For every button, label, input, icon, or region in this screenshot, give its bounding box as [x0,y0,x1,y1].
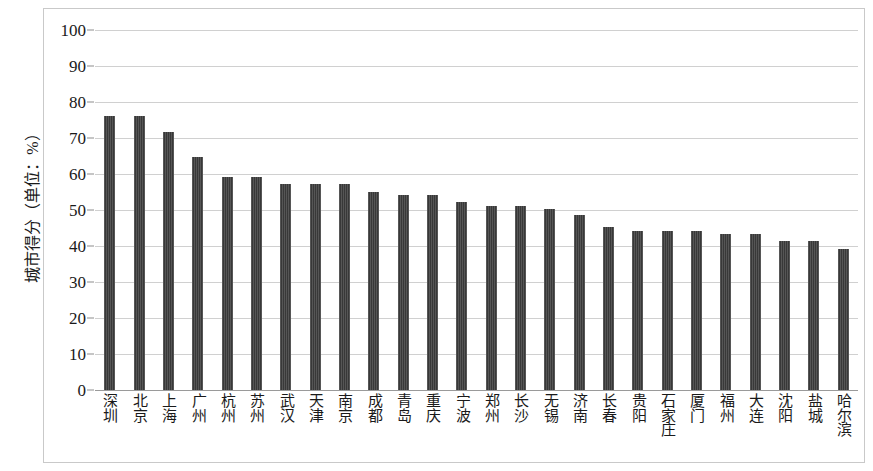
x-axis-label: 济南 [571,393,586,422]
y-tick-mark-30 [87,282,94,283]
bar [515,206,526,390]
x-axis-label: 长春 [601,393,616,422]
x-axis-label: 郑州 [483,393,498,422]
y-tick-mark-70 [87,138,94,139]
y-tick-label-50: 50 [69,202,86,219]
y-tick-mark-50 [87,210,94,211]
x-axis-label: 南京 [336,393,351,422]
y-axis-title: 城市得分（单位：%） [25,79,41,329]
y-tick-mark-40 [87,246,94,247]
x-axis-label: 深圳 [102,393,117,422]
x-axis-label: 大连 [747,393,762,422]
bar [603,227,614,390]
bar [251,177,262,390]
y-tick-label-20: 20 [69,310,86,327]
x-axis-label: 厦门 [689,393,704,422]
bar [398,195,409,390]
bar [544,209,555,390]
x-axis-label: 宁波 [454,393,469,422]
bar [632,231,643,390]
y-tick-label-40: 40 [69,238,86,255]
x-axis-label: 沈阳 [777,393,792,422]
bar [427,195,438,390]
y-tick-label-30: 30 [69,274,86,291]
bar [838,249,849,390]
bar-series [95,30,858,390]
x-axis-label: 天津 [307,393,322,422]
y-tick-label-0: 0 [78,382,87,399]
bar [134,116,145,390]
bar [339,184,350,390]
x-axis-label: 广州 [190,393,205,422]
y-tick-mark-10 [87,354,94,355]
x-axis-label: 重庆 [424,393,439,422]
y-tick-mark-80 [87,102,94,103]
bar [104,116,115,390]
y-tick-label-90: 90 [69,58,86,75]
bar [486,206,497,390]
bar [456,202,467,390]
x-axis-label: 上海 [160,393,175,422]
bar [779,241,790,390]
bar [280,184,291,390]
x-axis-label: 武汉 [278,393,293,422]
y-tick-label-70: 70 [69,130,86,147]
x-axis-label: 成都 [366,393,381,422]
bar [662,231,673,390]
x-axis-label: 青岛 [395,393,410,422]
y-tick-label-80: 80 [69,94,86,111]
x-axis-label: 贵阳 [630,393,645,422]
plot-area: 1009080706050403020100 [95,30,858,390]
y-tick-label-60: 60 [69,166,86,183]
x-axis-label: 福州 [718,393,733,422]
y-tick-mark-0 [87,390,94,391]
y-tick-label-10: 10 [69,346,86,363]
bar [163,132,174,390]
bar [368,192,379,390]
x-axis-label: 无锡 [542,393,557,422]
bar [808,241,819,390]
gridline-0 [95,390,858,391]
y-tick-label-100: 100 [61,22,87,39]
bar [720,234,731,390]
x-axis-label: 石家庄 [659,393,674,437]
x-axis-label: 苏州 [248,393,263,422]
bar [310,184,321,390]
y-tick-mark-100 [87,30,94,31]
bar [192,157,203,390]
x-axis-label: 杭州 [219,393,234,422]
bar-chart-figure: 城市得分（单位：%） 1009080706050403020100 深圳北京上海… [0,0,873,471]
x-axis-label: 长沙 [513,393,528,422]
y-tick-mark-90 [87,66,94,67]
y-tick-mark-20 [87,318,94,319]
bar [691,231,702,390]
bar [222,177,233,390]
bar [750,234,761,390]
y-tick-mark-60 [87,174,94,175]
x-axis-label: 盐城 [806,393,821,422]
x-axis-label: 北京 [131,393,146,422]
bar [574,215,585,390]
x-axis-labels: 深圳北京上海广州杭州苏州武汉天津南京成都青岛重庆宁波郑州长沙无锡济南长春贵阳石家… [95,393,858,471]
x-axis-label: 哈尔滨 [835,393,850,437]
